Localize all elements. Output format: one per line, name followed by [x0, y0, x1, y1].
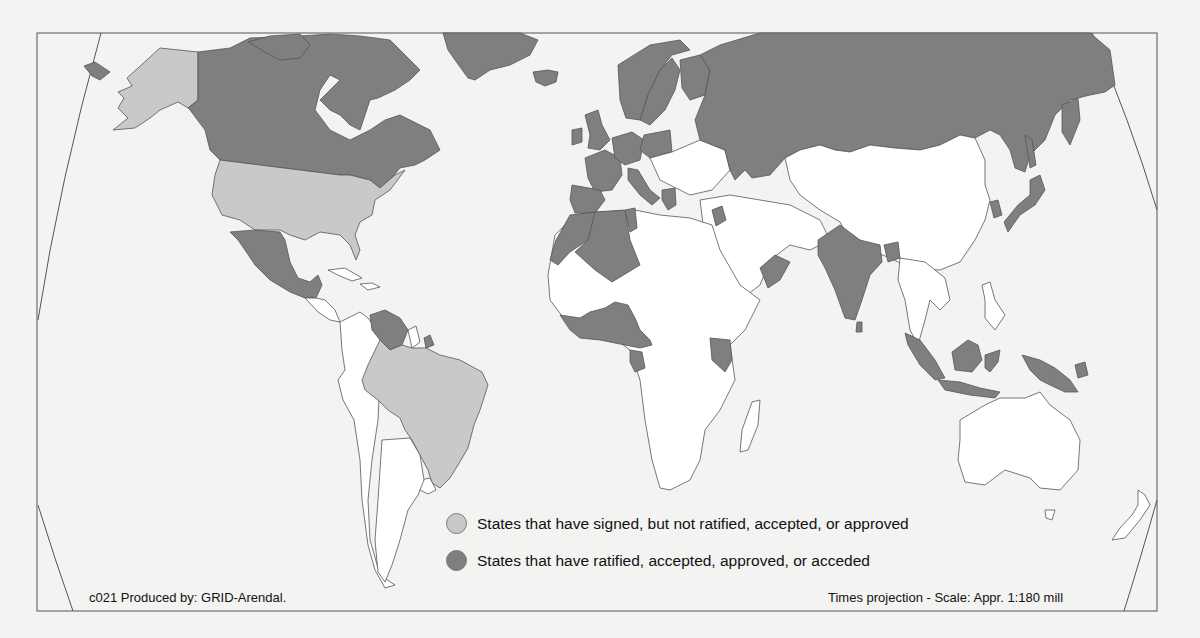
legend-item-signed: States that have signed, but not ratifie… — [446, 511, 909, 536]
legend: States that have signed, but not ratifie… — [446, 511, 909, 585]
country-ireland — [572, 128, 582, 145]
country-iceland — [533, 70, 558, 86]
country-argentina — [375, 438, 424, 582]
projection-edge-left-bottom — [38, 505, 73, 611]
region-russia-east-tip — [84, 62, 110, 80]
region-southeast-asia — [898, 258, 950, 345]
region-kamchatka — [1062, 98, 1080, 145]
island-new-britain — [1075, 362, 1088, 378]
country-mexico — [230, 230, 322, 298]
country-sri-lanka — [856, 322, 862, 332]
legend-label-ratified: States that have ratified, accepted, app… — [477, 552, 870, 570]
map-projection-scale: Times projection - Scale: Appr. 1:180 mi… — [828, 590, 1063, 605]
country-suriname — [424, 335, 434, 348]
island-sulawesi — [985, 350, 1000, 372]
island-borneo — [952, 340, 982, 372]
country-cuba — [328, 268, 362, 281]
region-central-america — [305, 298, 340, 322]
country-japan — [1004, 175, 1045, 232]
country-madagascar — [740, 400, 760, 452]
legend-swatch-signed-icon — [446, 513, 467, 534]
country-greenland — [443, 33, 538, 80]
legend-swatch-ratified-icon — [446, 550, 467, 571]
country-bangladesh — [884, 242, 900, 262]
country-philippines — [982, 282, 1005, 330]
island-java — [938, 380, 1000, 398]
island-tasmania — [1045, 510, 1055, 520]
country-alaska-usa — [113, 48, 198, 130]
country-guyana — [408, 326, 420, 348]
country-greece — [662, 188, 676, 210]
legend-label-signed: States that have signed, but not ratifie… — [477, 515, 909, 533]
country-united-kingdom — [585, 110, 610, 150]
map-credit: c021 Produced by: GRID-Arendal. — [89, 590, 286, 605]
legend-item-ratified: States that have ratified, accepted, app… — [446, 548, 909, 573]
island-hispaniola — [360, 283, 380, 290]
island-new-guinea — [1022, 355, 1078, 392]
country-south-korea — [990, 200, 1002, 218]
island-sumatra — [905, 333, 945, 380]
country-italy — [628, 168, 660, 205]
country-new-zealand — [1112, 490, 1150, 540]
country-australia — [958, 392, 1080, 490]
